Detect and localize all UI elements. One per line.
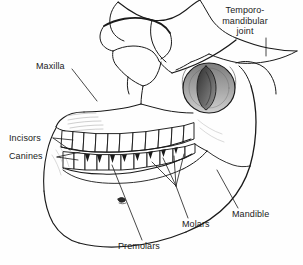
orbit [100,18,172,65]
leader-mandible [217,170,238,208]
label-mandible: Mandible [232,209,269,220]
tmj-condyle [236,62,276,95]
label-temporomandibular-joint: Temporo- mandibular joint [195,5,295,37]
zygomatic-arch [172,38,297,73]
anatomical-figure: Temporo- mandibular joint Maxilla Inciso… [0,0,303,265]
label-premolars: Premolars [118,241,160,252]
skull-line-art [0,0,303,265]
upper-teeth-row [61,123,194,152]
external-auditory-meatus [182,63,236,113]
nasal-region [116,61,172,104]
label-maxilla: Maxilla [36,61,65,72]
leader-maxilla [72,69,97,101]
maxilla-bone [56,104,193,131]
leader-molars-stem [176,186,188,218]
mental-foramen [118,198,125,203]
label-incisors: Incisors [9,133,41,144]
leader-premolars [112,165,142,240]
label-molars: Molars [182,219,210,230]
label-canines: Canines [9,151,43,162]
